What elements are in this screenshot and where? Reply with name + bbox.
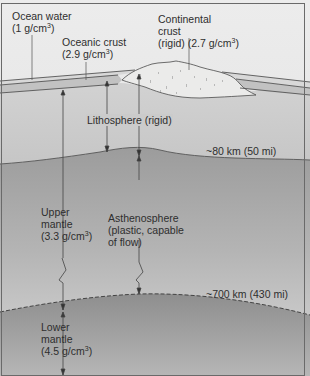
layers-graphic xyxy=(0,0,310,376)
label-oceanic-crust-line1: Oceanic crust xyxy=(62,36,126,48)
label-continental-crust-line2: crust xyxy=(158,25,239,37)
label-upper-mantle-line1: Upper xyxy=(41,206,92,218)
label-upper-mantle-density: (3.3 g/cm3) xyxy=(41,230,92,242)
label-asthenosphere: Asthenosphere (plastic, capable of flow) xyxy=(108,212,184,248)
label-depth-80km: ~80 km (50 mi) xyxy=(206,145,276,157)
label-continental-crust-line1: Continental xyxy=(158,13,239,25)
earth-layers-diagram: Ocean water (1 g/cm3) Oceanic crust (2.9… xyxy=(0,0,310,376)
label-asthenosphere-line1: Asthenosphere xyxy=(108,212,184,224)
label-lower-mantle-line2: mantle xyxy=(41,333,92,345)
label-depth-700km: ~700 km (430 mi) xyxy=(206,288,288,300)
label-lower-mantle-line1: Lower xyxy=(41,321,92,333)
label-asthenosphere-line2: (plastic, capable xyxy=(108,224,184,236)
label-ocean-water: Ocean water (1 g/cm3) xyxy=(12,10,72,34)
label-ocean-water-density: (1 g/cm3) xyxy=(12,22,72,34)
label-oceanic-crust: Oceanic crust (2.9 g/cm3) xyxy=(62,36,126,60)
label-lithosphere: Lithosphere (rigid) xyxy=(86,114,173,126)
label-ocean-water-line1: Ocean water xyxy=(12,10,72,22)
label-asthenosphere-line3: of flow) xyxy=(108,236,184,248)
label-continental-crust-density: (rigid) (2.7 g/cm3) xyxy=(158,37,239,49)
label-upper-mantle: Upper mantle (3.3 g/cm3) xyxy=(41,206,92,242)
label-upper-mantle-line2: mantle xyxy=(41,218,92,230)
label-lower-mantle-density: (4.5 g/cm3) xyxy=(41,345,92,357)
label-lower-mantle: Lower mantle (4.5 g/cm3) xyxy=(41,321,92,357)
label-oceanic-crust-density: (2.9 g/cm3) xyxy=(62,48,126,60)
label-continental-crust: Continental crust (rigid) (2.7 g/cm3) xyxy=(158,13,239,49)
